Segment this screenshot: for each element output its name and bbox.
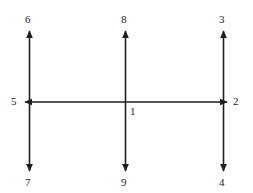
node-label-5: 5 [11,95,17,107]
node-label-2: 2 [233,95,239,107]
node-label-4: 4 [219,176,225,188]
node-label-3: 3 [219,13,225,25]
node-label-1: 1 [130,105,136,117]
node-label-9: 9 [121,176,127,188]
node-label-8: 8 [121,13,127,25]
node-label-7: 7 [25,176,31,188]
diagram-canvas [0,0,253,193]
arrow-axes-diagram: 6 8 3 5 1 2 7 9 4 [0,0,253,193]
node-label-6: 6 [25,13,31,25]
